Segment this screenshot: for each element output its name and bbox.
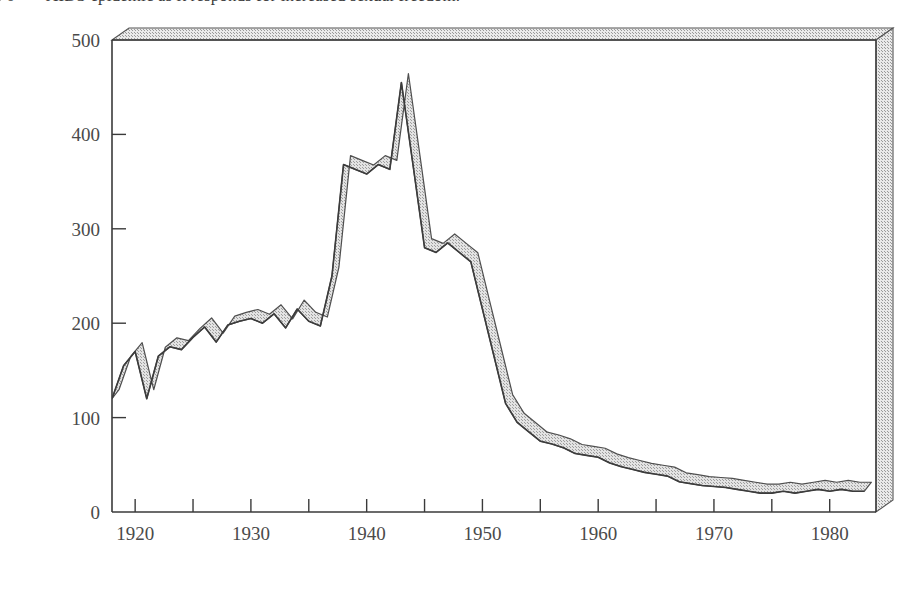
x-tick-label: 1950 [463, 523, 501, 544]
plot-axes [112, 40, 876, 512]
series-syphilis-line [112, 82, 864, 493]
y-tick-label: 500 [72, 30, 101, 51]
figure-container: 6 AIDS epidemic as it responds for incre… [0, 0, 910, 591]
y-tick-label: 100 [72, 408, 101, 429]
y-tick-label: 300 [72, 219, 101, 240]
y-axis-ticks: 0100200300400500 [72, 30, 127, 523]
y-tick-label: 400 [72, 124, 101, 145]
x-tick-label: 1920 [116, 523, 154, 544]
series-syphilis-ribbon [112, 73, 871, 493]
x-tick-label: 1960 [579, 523, 617, 544]
chart-canvas: 0100200300400500 19201930194019501960197… [0, 0, 910, 591]
x-tick-label: 1940 [348, 523, 386, 544]
x-tick-label: 1970 [695, 523, 733, 544]
x-axis-ticks: 1920193019401950196019701980 [116, 499, 849, 544]
y-tick-label: 0 [91, 502, 101, 523]
x-tick-label: 1980 [811, 523, 849, 544]
y-tick-label: 200 [72, 313, 101, 334]
plot-frame-3d [112, 28, 893, 512]
x-tick-label: 1930 [232, 523, 270, 544]
